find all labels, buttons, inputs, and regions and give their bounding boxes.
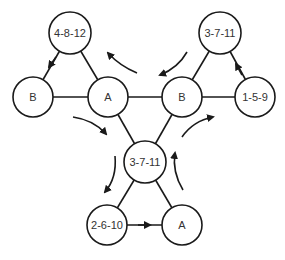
curved-arrow-top-left-icon bbox=[108, 53, 137, 73]
nodes bbox=[13, 12, 275, 245]
node-label-B-middle: B bbox=[162, 89, 202, 105]
node-label-3-7-11-top: 3-7-11 bbox=[200, 25, 240, 41]
edge-arrowhead-icon bbox=[236, 64, 242, 75]
edge-arrowhead-icon bbox=[49, 57, 56, 67]
diagram-graphics bbox=[0, 0, 285, 260]
node-label-A-bottom: A bbox=[162, 217, 202, 233]
node-label-3-7-11-center: 3-7-11 bbox=[125, 154, 165, 170]
node-label-1-5-9: 1-5-9 bbox=[235, 89, 275, 105]
node-label-4-8-12: 4-8-12 bbox=[50, 25, 90, 41]
curved-arrow-top-right-icon bbox=[160, 52, 187, 75]
curved-arrow-bottom-left-icon bbox=[105, 156, 115, 192]
node-label-2-6-10: 2-6-10 bbox=[87, 217, 127, 233]
curved-arrow-middle-left-icon bbox=[73, 117, 106, 134]
diagram-canvas: 4-8-12 3-7-11 B A B 1-5-9 3-7-11 2-6-10 … bbox=[0, 0, 285, 260]
edges bbox=[33, 33, 255, 225]
curved-arrow-middle-right-icon bbox=[182, 117, 213, 137]
node-label-A-middle: A bbox=[88, 89, 128, 105]
node-label-B-left: B bbox=[13, 89, 53, 105]
curved-arrow-bottom-right-icon bbox=[174, 153, 183, 190]
